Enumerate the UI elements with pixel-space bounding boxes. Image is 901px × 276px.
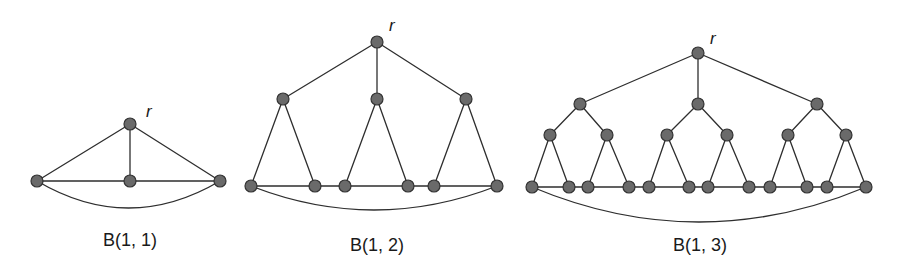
tree-edge — [283, 99, 315, 186]
leaf-node — [428, 180, 440, 192]
tree-edge — [607, 135, 629, 187]
tree-edge — [667, 135, 689, 187]
edges — [37, 124, 220, 208]
internal-node — [371, 93, 383, 105]
tree-edge — [550, 135, 569, 187]
leaf-node — [764, 181, 776, 193]
root-node — [692, 47, 704, 59]
tree-edge — [434, 99, 466, 186]
root-node — [124, 118, 136, 130]
tree-edge — [727, 135, 749, 187]
leaf-node — [526, 181, 538, 193]
graph-caption: B(1, 2) — [350, 235, 404, 255]
nodes — [526, 47, 872, 193]
tree-edge — [649, 135, 667, 187]
leaf-node — [860, 181, 872, 193]
leaf-node — [245, 180, 257, 192]
leaf-node — [743, 181, 755, 193]
internal-node — [692, 98, 704, 110]
root-label: r — [146, 102, 153, 121]
nodes — [31, 118, 226, 187]
edges — [251, 42, 497, 210]
leaf-node — [801, 181, 813, 193]
leaf-node — [402, 180, 414, 192]
leaf-node — [214, 175, 226, 187]
internal-node — [460, 93, 472, 105]
tree-edge — [827, 135, 846, 187]
tree-edge — [37, 124, 130, 181]
leaf-node — [702, 181, 714, 193]
internal-node — [601, 129, 613, 141]
tree-edge — [251, 99, 283, 186]
internal-node — [721, 129, 733, 141]
graph-b-1-3: r B(1, 3) — [526, 29, 872, 255]
root-label: r — [710, 29, 717, 48]
leaf-node — [124, 175, 136, 187]
leaf-node — [339, 180, 351, 192]
tree-edge — [377, 42, 466, 99]
leaf-node — [683, 181, 695, 193]
tree-edge — [770, 135, 788, 187]
tree-edge — [532, 135, 550, 187]
internal-node — [544, 129, 556, 141]
root-node — [371, 36, 383, 48]
graph-caption: B(1, 1) — [103, 230, 157, 250]
graph-b-1-2: r B(1, 2) — [245, 16, 503, 255]
tree-edge — [580, 53, 698, 104]
tree-edge — [708, 135, 727, 187]
tree-edge — [345, 99, 377, 186]
tree-edge — [846, 135, 866, 187]
tree-edge — [788, 135, 807, 187]
tree-edge — [377, 99, 408, 186]
leaf-node — [309, 180, 321, 192]
tree-edge — [130, 124, 220, 181]
graph-b-1-1: r B(1, 1) — [31, 102, 226, 250]
tree-edge — [588, 135, 607, 187]
internal-node — [811, 98, 823, 110]
internal-node — [574, 98, 586, 110]
binary-tree-figure: r B(1, 1) r B(1, 2) r B(1, 3) — [0, 0, 901, 276]
leaf-node — [821, 181, 833, 193]
internal-node — [661, 129, 673, 141]
cycle-closing-arc — [251, 186, 497, 210]
leaf-node — [582, 181, 594, 193]
graph-caption: B(1, 3) — [673, 235, 727, 255]
tree-edge — [698, 53, 817, 104]
internal-node — [840, 129, 852, 141]
edges — [532, 53, 866, 222]
leaf-node — [563, 181, 575, 193]
leaf-node — [31, 175, 43, 187]
internal-node — [782, 129, 794, 141]
root-label: r — [389, 16, 396, 35]
nodes — [245, 36, 503, 192]
cycle-closing-arc — [532, 187, 866, 222]
leaf-node — [491, 180, 503, 192]
leaf-node — [643, 181, 655, 193]
tree-edge — [283, 42, 377, 99]
tree-edge — [466, 99, 497, 186]
leaf-node — [623, 181, 635, 193]
internal-node — [277, 93, 289, 105]
